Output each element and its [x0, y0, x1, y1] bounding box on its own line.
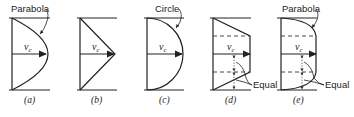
- panel-label: (b): [91, 95, 102, 106]
- circle-annotation: Circle: [155, 3, 179, 14]
- parabola-annotation: Parabola: [11, 3, 50, 14]
- panel-a: vc Parabola (a): [9, 3, 50, 106]
- velocity-label: vc: [227, 41, 235, 54]
- parabola-annotation: Parabola: [282, 3, 321, 14]
- equal-leader: [236, 80, 252, 85]
- velocity-label: vc: [159, 41, 167, 54]
- velocity-profiles-diagram: vc Parabola (a) vc (b) vc Circle (c): [0, 0, 354, 117]
- velocity-label: vc: [92, 41, 100, 54]
- panel-e: vc Parabola Equal (e): [277, 3, 349, 106]
- panel-b: vc (b): [77, 18, 117, 106]
- equal-leader: [304, 62, 324, 85]
- panel-label: (a): [24, 95, 35, 106]
- panel-label: (d): [225, 95, 236, 106]
- velocity-label: vc: [295, 41, 303, 54]
- velocity-label: vc: [24, 41, 32, 54]
- panel-label: (c): [159, 95, 170, 106]
- equal-annotation: Equal: [253, 79, 277, 90]
- panel-d: vc Equal (d): [210, 18, 277, 106]
- equal-annotation: Equal: [325, 79, 349, 90]
- panel-label: (e): [293, 95, 304, 106]
- panel-c: vc Circle (c): [144, 3, 184, 106]
